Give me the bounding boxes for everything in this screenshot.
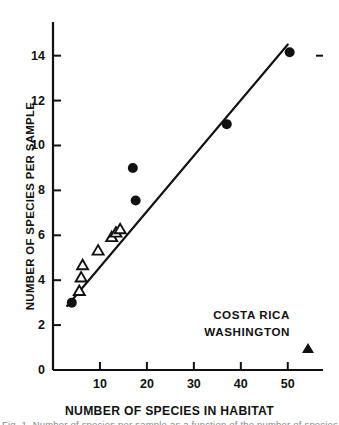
- chart-figure: NUMBER OF SPECIES PER SAMPLE NUMBER OF S…: [0, 0, 339, 425]
- legend-label-costa-rica: COSTA RICA: [213, 308, 290, 321]
- data-point-costa-rica: [67, 298, 77, 308]
- x-tick-label: 50: [273, 378, 303, 390]
- open-triangle-icon: [302, 326, 316, 339]
- fit-line: [67, 44, 288, 306]
- y-tick-label: 10: [19, 139, 45, 151]
- x-tick-label: 40: [226, 378, 256, 390]
- y-tick-label: 6: [19, 229, 45, 241]
- y-tick-label: 2: [19, 319, 45, 331]
- data-point-washington: [76, 272, 87, 282]
- legend-label-washington: WASHINGTON: [204, 325, 290, 338]
- plot-area: [0, 0, 339, 425]
- data-point-costa-rica: [285, 47, 295, 57]
- y-tick-label: 14: [19, 50, 45, 62]
- y-tick-label: 0: [19, 364, 45, 376]
- data-point-washington: [77, 260, 88, 270]
- data-points: [67, 47, 295, 307]
- chart-legend: COSTA RICA WASHINGTON: [186, 307, 316, 341]
- legend-item-washington: WASHINGTON: [186, 324, 316, 341]
- data-point-costa-rica: [128, 163, 138, 173]
- data-point-costa-rica: [131, 195, 141, 205]
- legend-item-costa-rica: COSTA RICA: [186, 307, 316, 324]
- data-point-washington: [93, 245, 104, 255]
- y-tick-label: 8: [19, 184, 45, 196]
- regression-line: [67, 44, 288, 306]
- x-tick-label: 20: [132, 378, 162, 390]
- x-axis-title: NUMBER OF SPECIES IN HABITAT: [0, 404, 339, 418]
- filled-circle-icon: [302, 309, 316, 322]
- figure-caption-fragment: Fig. 1. Number of species per sample as …: [2, 419, 339, 425]
- data-point-costa-rica: [222, 119, 232, 129]
- y-tick-label: 12: [19, 95, 45, 107]
- x-tick-label: 30: [179, 378, 209, 390]
- y-tick-label: 4: [19, 274, 45, 286]
- x-tick-label: 10: [85, 378, 115, 390]
